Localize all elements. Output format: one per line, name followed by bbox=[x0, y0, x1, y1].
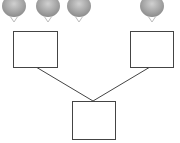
bulb-icon bbox=[67, 0, 91, 22]
bulb-icon bbox=[2, 0, 26, 22]
connector-right bbox=[93, 67, 150, 101]
left-box bbox=[14, 32, 58, 68]
diagram-canvas bbox=[0, 0, 180, 143]
bottom-box bbox=[73, 102, 116, 140]
bulb-icon bbox=[36, 0, 60, 22]
bulb-icon bbox=[140, 0, 164, 22]
connector-left bbox=[36, 67, 93, 101]
right-box bbox=[131, 32, 174, 68]
